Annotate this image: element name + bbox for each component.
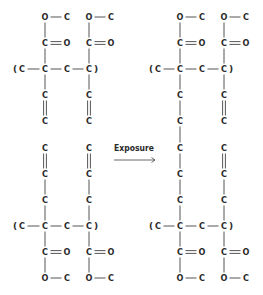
crosslinking-diagram: OCOCCOCOCCCCCCCCCCCCCCCCCCCOCOOCOCOCOCCO… [0,0,263,295]
oxygen-atom: O [243,247,250,257]
open-paren: ( [149,64,153,74]
carbon-atom: C [199,12,205,22]
close-paren: ) [94,221,98,231]
carbon-atom: C [64,12,70,22]
carbon-atom: C [42,247,48,257]
carbon-atom: C [19,221,25,231]
carbon-atom: C [177,90,183,100]
oxygen-atom: O [42,12,49,22]
carbon-atom: C [221,221,227,231]
carbon-atom: C [42,116,48,126]
carbon-atom: C [86,90,92,100]
carbon-atom: C [177,116,183,126]
carbon-atom: C [86,116,92,126]
carbon-atom: C [86,64,92,74]
carbon-atom: C [42,64,48,74]
exposure-arrow-group: Exposure [114,143,155,163]
oxygen-atom: O [86,273,93,283]
carbon-atom: C [221,64,227,74]
carbon-atom: C [155,221,161,231]
oxygen-atom: O [64,247,71,257]
carbon-atom: C [42,195,48,205]
oxygen-atom: O [199,247,206,257]
carbon-atom: C [199,221,205,231]
carbon-atom: C [42,38,48,48]
carbon-atom: C [19,64,25,74]
carbon-atom: C [221,195,227,205]
oxygen-atom: O [42,273,49,283]
carbon-atom: C [86,169,92,179]
carbon-atom: C [108,12,114,22]
carbon-atom: C [177,221,183,231]
carbon-atom: C [243,12,249,22]
oxygen-atom: O [199,38,206,48]
open-paren: ( [13,64,17,74]
carbon-atom: C [199,64,205,74]
carbon-atom: C [64,64,70,74]
carbon-atom: C [221,143,227,153]
carbon-atom: C [221,116,227,126]
carbon-atom: C [86,38,92,48]
oxygen-atom: O [108,247,115,257]
carbon-atom: C [86,221,92,231]
carbon-atom: C [177,247,183,257]
carbon-atom: C [177,169,183,179]
open-paren: ( [13,221,17,231]
carbon-atom: C [86,195,92,205]
carbon-atom: C [221,38,227,48]
carbon-atom: C [155,64,161,74]
oxygen-atom: O [177,273,184,283]
carbon-atom: C [221,169,227,179]
oxygen-atom: O [108,38,115,48]
close-paren: ) [94,64,98,74]
oxygen-atom: O [243,38,250,48]
oxygen-atom: O [177,12,184,22]
carbon-atom: C [108,273,114,283]
open-paren: ( [149,221,153,231]
carbon-atom: C [177,195,183,205]
oxygen-atom: O [64,38,71,48]
carbon-atom: C [64,221,70,231]
oxygen-atom: O [221,273,228,283]
close-paren: ) [229,221,233,231]
carbon-atom: C [86,247,92,257]
carbon-atom: C [199,273,205,283]
carbon-atom: C [243,273,249,283]
carbon-atom: C [64,273,70,283]
oxygen-atom: O [221,12,228,22]
carbon-atom: C [177,38,183,48]
exposure-label: Exposure [114,143,154,153]
carbon-atom: C [177,143,183,153]
carbon-atom: C [42,221,48,231]
carbon-atom: C [177,64,183,74]
carbon-atom: C [42,90,48,100]
carbon-atom: C [42,169,48,179]
carbon-atom: C [221,90,227,100]
oxygen-atom: O [86,12,93,22]
carbon-atom: C [42,143,48,153]
carbon-atom: C [221,247,227,257]
carbon-atom: C [86,143,92,153]
close-paren: ) [229,64,233,74]
